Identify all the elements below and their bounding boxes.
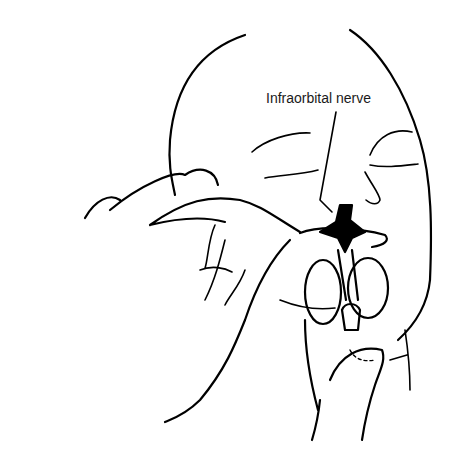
nerve-block-illustration: Infraorbital nerve: [0, 0, 458, 469]
wrist: [165, 240, 290, 422]
line-drawing: [0, 0, 458, 469]
left-eyelid: [265, 170, 318, 178]
head-outline-right: [350, 30, 431, 340]
hand-finger-lines: [200, 225, 245, 305]
nose: [365, 172, 380, 204]
thumb: [330, 349, 383, 440]
finger-left: [305, 260, 341, 324]
infraorbital-nerve-label: Infraorbital nerve: [266, 90, 371, 106]
left-eye: [252, 133, 310, 152]
hand-lower: [305, 320, 320, 440]
right-eye-brow: [370, 131, 412, 155]
right-eyelid: [370, 164, 418, 167]
retracting-hand: [85, 170, 300, 232]
pointer-line: [320, 112, 336, 212]
